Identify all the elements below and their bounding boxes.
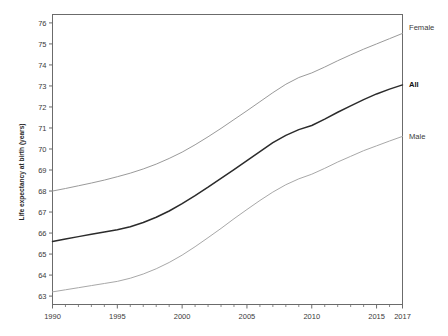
y-tick-label: 71 xyxy=(38,124,46,133)
y-tick-label: 65 xyxy=(38,250,46,259)
y-tick-label: 72 xyxy=(38,103,46,112)
x-tick-label: 2017 xyxy=(394,312,411,321)
y-tick-label: 73 xyxy=(38,82,46,91)
y-tick-label: 64 xyxy=(38,271,46,280)
y-tick-label: 69 xyxy=(38,166,46,175)
series-label-male: Male xyxy=(409,132,425,141)
y-tick-label: 75 xyxy=(38,40,46,49)
x-tick-label: 2000 xyxy=(174,312,191,321)
y-tick-label: 74 xyxy=(38,61,46,70)
life-expectancy-line-chart: 6364656667686970717273747576 19901995200… xyxy=(0,0,448,336)
series-label-female: Female xyxy=(409,23,434,32)
y-tick-label: 63 xyxy=(38,292,46,301)
x-tick-label: 2015 xyxy=(368,312,385,321)
y-tick-label: 70 xyxy=(38,145,46,154)
y-tick-label: 76 xyxy=(38,19,46,28)
y-tick-label: 68 xyxy=(38,187,46,196)
x-tick-label: 1995 xyxy=(109,312,126,321)
chart-background xyxy=(0,0,448,336)
chart-container: 6364656667686970717273747576 19901995200… xyxy=(0,0,448,336)
x-tick-label: 1990 xyxy=(44,312,61,321)
x-tick-label: 2010 xyxy=(303,312,320,321)
y-axis-title: Life expectancy at birth (years) xyxy=(18,123,26,220)
y-tick-label: 66 xyxy=(38,229,46,238)
y-tick-label: 67 xyxy=(38,208,46,217)
x-tick-label: 2005 xyxy=(239,312,256,321)
series-label-all: All xyxy=(409,80,419,89)
